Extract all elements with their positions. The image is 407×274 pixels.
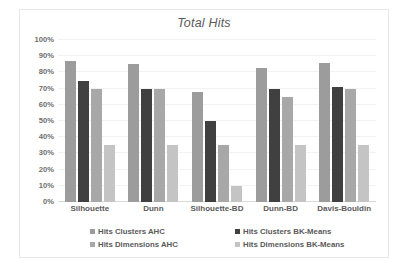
bar[interactable] <box>78 81 89 203</box>
bar[interactable] <box>205 121 216 202</box>
y-axis-tick-label: 40% <box>39 132 54 141</box>
y-axis-tick-label: 0% <box>43 197 54 206</box>
legend-item[interactable]: Hits Dimensions AHC <box>68 238 213 251</box>
bar[interactable] <box>358 145 369 202</box>
y-axis-tick-label: 60% <box>39 99 54 108</box>
bar[interactable] <box>65 61 76 202</box>
legend-swatch-icon <box>235 242 240 247</box>
bar[interactable] <box>167 145 178 202</box>
bar[interactable] <box>91 89 102 202</box>
bar[interactable] <box>128 64 139 202</box>
y-axis-tick-label: 30% <box>39 148 54 157</box>
bar-groups <box>58 40 376 202</box>
y-axis-tick-label: 100% <box>35 35 54 44</box>
bar[interactable] <box>282 97 293 202</box>
x-axis-category-label: Silhouette <box>58 204 122 213</box>
y-axis-tick-label: 10% <box>39 180 54 189</box>
bar[interactable] <box>192 92 203 202</box>
bar[interactable] <box>295 145 306 202</box>
legend-item[interactable]: Hits Clusters BK-Means <box>213 225 358 238</box>
legend-label: Hits Clusters BK-Means <box>243 227 331 236</box>
legend-item[interactable]: Hits Dimensions BK-Means <box>213 238 358 251</box>
bar[interactable] <box>269 89 280 202</box>
x-axis-labels: SilhouetteDunnSilhouette-BDDunn-BDDavis-… <box>58 204 376 213</box>
legend-swatch-icon <box>90 242 95 247</box>
bar[interactable] <box>141 89 152 202</box>
x-axis-category-label: Davis-Bouldin <box>312 204 376 213</box>
bar[interactable] <box>256 68 267 202</box>
legend-swatch-icon <box>235 229 240 234</box>
bar-group <box>58 40 122 202</box>
legend-swatch-icon <box>90 229 95 234</box>
y-axis-tick-label: 90% <box>39 51 54 60</box>
bar-group <box>249 40 313 202</box>
legend-label: Hits Dimensions BK-Means <box>243 240 344 249</box>
bar[interactable] <box>345 89 356 202</box>
chart-title: Total Hits <box>20 16 388 30</box>
bar-group <box>185 40 249 202</box>
y-axis-tick-label: 50% <box>39 116 54 125</box>
y-axis-tick-label: 70% <box>39 83 54 92</box>
bar[interactable] <box>154 89 165 202</box>
y-axis-tick-label: 80% <box>39 67 54 76</box>
legend-label: Hits Clusters AHC <box>98 227 165 236</box>
bar[interactable] <box>104 145 115 202</box>
bar[interactable] <box>332 87 343 202</box>
x-axis-category-label: Silhouette-BD <box>185 204 249 213</box>
bar-group <box>122 40 186 202</box>
x-axis-category-label: Dunn-BD <box>249 204 313 213</box>
legend-item[interactable]: Hits Clusters AHC <box>68 225 213 238</box>
bar[interactable] <box>231 186 242 202</box>
legend-label: Hits Dimensions AHC <box>98 240 178 249</box>
chart-container: Total Hits 100%90%80%70%60%50%40%30%20%1… <box>19 9 389 258</box>
chart-legend: Hits Clusters AHCHits Clusters BK-MeansH… <box>68 225 358 251</box>
bar[interactable] <box>218 145 229 202</box>
bar-group <box>312 40 376 202</box>
bar[interactable] <box>319 63 330 202</box>
plot-area: 100%90%80%70%60%50%40%30%20%10%0% <box>58 40 376 202</box>
y-axis-tick-label: 20% <box>39 164 54 173</box>
x-axis-category-label: Dunn <box>122 204 186 213</box>
